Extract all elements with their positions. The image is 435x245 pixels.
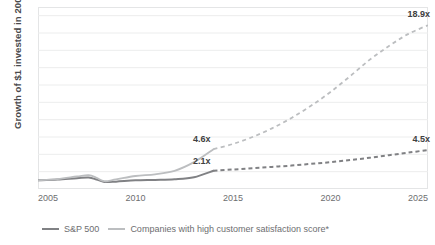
legend-item-sp500[interactable]: S&P 500 (42, 224, 99, 234)
x-tick-2015: 2015 (223, 193, 243, 203)
x-tick-2020: 2020 (320, 193, 340, 203)
x-tick-2010: 2010 (125, 193, 145, 203)
annotation-sp500-2025: 4.5x (412, 134, 430, 144)
annotation-high-csat-2025: 18.9x (407, 9, 430, 19)
annotation-sp500-2014: 2.1x (193, 156, 211, 166)
series-line-dashed-0 (214, 150, 429, 171)
legend-label-sp500: S&P 500 (64, 224, 99, 234)
legend-swatch-sp500-icon (42, 228, 59, 230)
legend-label-high-csat: Companies with high customer satisfactio… (130, 224, 329, 234)
series-line-dashed-1 (214, 25, 429, 149)
x-tick-2005: 2005 (38, 193, 58, 203)
chart-container: Growth of $1 invested in 2005 2005 2010 … (0, 0, 435, 245)
x-tick-2025: 2025 (408, 193, 428, 203)
series-line-solid-0 (38, 171, 214, 182)
legend-swatch-high-csat-icon (108, 228, 125, 230)
chart-svg (38, 7, 428, 189)
y-axis-title: Growth of $1 invested in 2005 (12, 0, 23, 141)
legend-item-high-csat[interactable]: Companies with high customer satisfactio… (108, 224, 329, 234)
plot-area (38, 7, 428, 189)
annotation-high-csat-2014: 4.6x (193, 134, 211, 144)
chart-legend: S&P 500 Companies with high customer sat… (42, 224, 329, 234)
